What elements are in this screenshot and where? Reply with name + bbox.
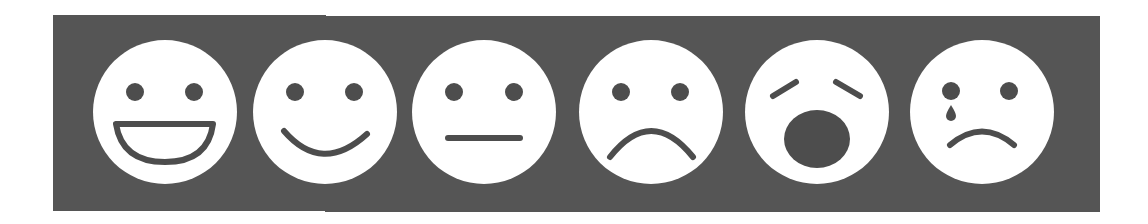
face-very-happy-icon[interactable] [93, 40, 237, 184]
face-crying-icon[interactable] [910, 40, 1054, 184]
right-eye-icon [185, 83, 203, 101]
emotion-rating-scale [0, 0, 1148, 224]
face-sad-icon[interactable] [579, 40, 723, 184]
face-happy-icon[interactable] [253, 40, 397, 184]
left-eye-icon [942, 82, 960, 100]
face-neutral-icon[interactable] [412, 40, 556, 184]
faces-scale-graphic [0, 0, 1148, 224]
left-eye-icon [612, 83, 630, 101]
right-eye-icon [345, 83, 363, 101]
left-eye-icon [286, 83, 304, 101]
left-eye-icon [126, 83, 144, 101]
right-eye-icon [1000, 82, 1018, 100]
left-eye-icon [445, 83, 463, 101]
face-distressed-icon[interactable] [745, 40, 889, 184]
right-eye-icon [505, 83, 523, 101]
right-eye-icon [671, 83, 689, 101]
open-mouth-icon [784, 110, 850, 168]
